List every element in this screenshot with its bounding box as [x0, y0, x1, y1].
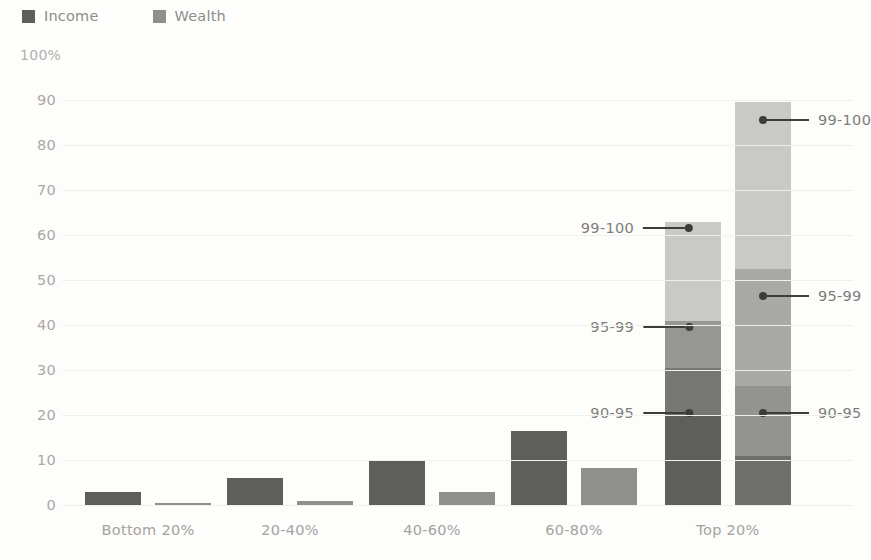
gridline-60: [62, 235, 853, 236]
annotation-label: 99-100: [581, 220, 634, 236]
annotation-label: 90-95: [818, 405, 862, 421]
annotation-wealth-95-99: 95-99: [759, 288, 862, 304]
leader-line: [643, 326, 685, 328]
y-axis-tick-0: 0: [8, 497, 56, 513]
bar-segment-main: [369, 460, 425, 505]
bar-income-4[interactable]: [665, 222, 721, 506]
y-axis-tick-30: 30: [8, 362, 56, 378]
bar-wealth-2[interactable]: [439, 492, 495, 505]
annotation-income-99-100: 99-100: [581, 220, 693, 236]
annotation-dot: [685, 224, 693, 232]
bar-group-2: [369, 460, 495, 505]
y-axis-tick-70: 70: [8, 182, 56, 198]
y-axis-tick-10: 10: [8, 452, 56, 468]
gridline-10: [62, 460, 853, 461]
bar-group-1: [227, 478, 353, 505]
bar-segment-main: [511, 431, 567, 505]
x-axis-label-2: 40-60%: [403, 522, 461, 538]
gridline-50: [62, 280, 853, 281]
bar-wealth-3[interactable]: [581, 468, 637, 505]
bar-segment-main: [85, 492, 141, 506]
annotation-label: 95-99: [590, 319, 634, 335]
annotation-label: 99-100: [818, 112, 871, 128]
bar-segment-main: [227, 478, 283, 505]
annotation-dot: [759, 292, 767, 300]
bar-group-3: [511, 431, 637, 505]
gridline-90: [62, 100, 853, 101]
leader-line: [767, 119, 809, 121]
gridline-80: [62, 145, 853, 146]
gridline-70: [62, 190, 853, 191]
y-axis-tick-80: 80: [8, 137, 56, 153]
y-axis: 9080706050403020100: [0, 0, 56, 560]
leader-line: [643, 227, 685, 229]
x-axis-label-1: 20-40%: [261, 522, 319, 538]
y-axis-tick-60: 60: [8, 227, 56, 243]
bar-income-3[interactable]: [511, 431, 567, 505]
x-axis-label-3: 60-80%: [545, 522, 603, 538]
bar-segment-main: [581, 468, 637, 505]
y-axis-tick-50: 50: [8, 272, 56, 288]
x-axis-label-4: Top 20%: [696, 522, 759, 538]
gridline-30: [62, 370, 853, 371]
annotation-label: 95-99: [818, 288, 862, 304]
bar-income-0[interactable]: [85, 492, 141, 506]
bar-segment-99-100: [665, 222, 721, 321]
annotation-wealth-90-95: 90-95: [759, 405, 862, 421]
annotation-dot: [759, 116, 767, 124]
bar-income-1[interactable]: [227, 478, 283, 505]
leader-line: [767, 412, 809, 414]
bar-group-0: [85, 492, 211, 506]
annotation-income-90-95: 90-95: [590, 405, 693, 421]
leader-line: [767, 295, 809, 297]
y-axis-tick-90: 90: [8, 92, 56, 108]
annotation-income-95-99: 95-99: [590, 319, 693, 335]
annotation-wealth-99-100: 99-100: [759, 112, 871, 128]
bar-income-2[interactable]: [369, 460, 425, 505]
gridline-20: [62, 415, 853, 416]
gridline-40: [62, 325, 853, 326]
leader-line: [643, 412, 685, 414]
bar-segment-main: [439, 492, 495, 505]
y-axis-tick-40: 40: [8, 317, 56, 333]
bar-segment-95-99: [735, 269, 791, 386]
gridline-0: [62, 505, 853, 506]
bar-segment-80-90: [735, 456, 791, 506]
x-axis-label-0: Bottom 20%: [101, 522, 194, 538]
y-axis-tick-20: 20: [8, 407, 56, 423]
annotation-label: 90-95: [590, 405, 634, 421]
